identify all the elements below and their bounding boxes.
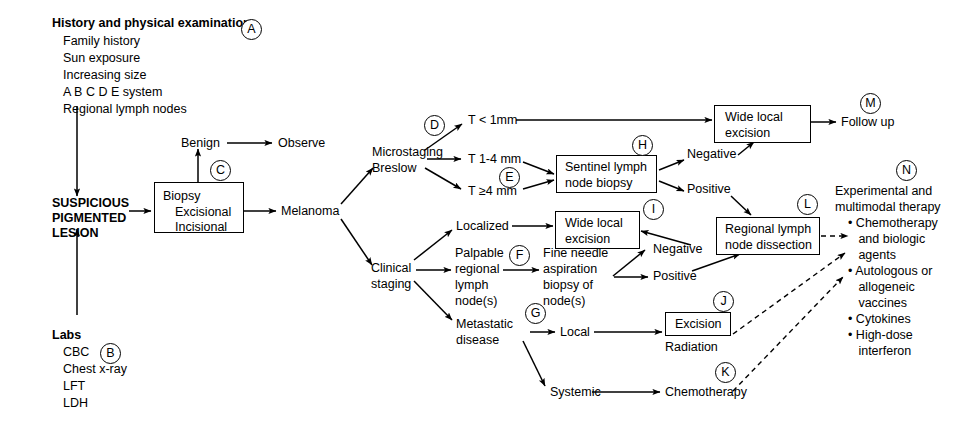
therapy-bullet-vaccines: • Autologous or xyxy=(848,264,932,278)
wide-local-excision-top-box: Wide local excision xyxy=(714,105,811,143)
microstaging-label: Microstaging xyxy=(372,145,443,161)
palpable-line4: node(s) xyxy=(455,294,497,310)
therapy-bullet-chemotherapy: • Chemotherapy xyxy=(848,216,938,230)
clinical-staging-line1: Clinical xyxy=(371,261,411,277)
key-circle-d: D xyxy=(424,115,445,136)
therapy-heading-line1: Experimental and xyxy=(835,184,932,200)
follow-up-label: Follow up xyxy=(841,115,895,131)
therapy-bullet-interferon: • High-dose xyxy=(848,328,913,342)
therapy-heading-line2: multimodal therapy xyxy=(835,200,941,216)
radiation-label: Radiation xyxy=(665,340,718,356)
connector-layer xyxy=(0,0,974,421)
excision-label: Excision xyxy=(675,316,722,332)
local-label: Local xyxy=(560,325,590,341)
wide-local-top-line1: Wide local xyxy=(725,109,783,125)
flowchart-canvas: History and physical examination A Famil… xyxy=(0,0,974,421)
t-stage-lt-1mm: T < 1mm xyxy=(468,113,517,129)
therapy-bullet-vaccines-cont1: allogeneic xyxy=(848,280,915,294)
rlnd-line1: Regional lymph xyxy=(725,221,811,237)
key-circle-e: E xyxy=(499,167,520,188)
key-circle-a: A xyxy=(241,19,262,40)
history-item-regional-lymph-nodes: Regional lymph nodes xyxy=(63,102,187,118)
history-item-increasing-size: Increasing size xyxy=(63,68,146,84)
history-heading: History and physical examination xyxy=(52,16,251,32)
history-item-abcde-system: A B C D E system xyxy=(63,85,162,101)
sentinel-label-line1: Sentinel lymph xyxy=(565,159,647,175)
suspicious-lesion-line2: PIGMENTED xyxy=(52,211,126,227)
labs-item-cbc: CBC xyxy=(63,345,89,361)
fna-line3: biopsy of xyxy=(543,278,593,294)
benign-label: Benign xyxy=(181,136,220,152)
biopsy-label-line1: Biopsy xyxy=(163,188,201,204)
key-circle-b: B xyxy=(100,343,121,364)
labs-heading: Labs xyxy=(52,328,81,344)
history-item-sun-exposure: Sun exposure xyxy=(63,51,140,67)
key-circle-n: N xyxy=(896,160,917,181)
suspicious-lesion-line1: SUSPICIOUS xyxy=(52,196,129,212)
palpable-line3: lymph xyxy=(455,278,488,294)
key-circle-i: I xyxy=(643,199,664,220)
fna-negative-label: Negative xyxy=(653,242,702,258)
key-circle-h: H xyxy=(632,135,653,156)
sentinel-positive-label: Positive xyxy=(687,182,731,198)
localized-label: Localized xyxy=(456,219,509,235)
wide-local-top-line2: excision xyxy=(725,125,770,141)
key-circle-l: L xyxy=(797,194,818,215)
sentinel-lymph-node-biopsy-box: Sentinel lymph node biopsy xyxy=(556,155,657,193)
wide-local-mid-line1: Wide local xyxy=(565,215,623,231)
labs-item-ldh: LDH xyxy=(63,396,88,412)
fna-line4: node(s) xyxy=(543,294,585,310)
melanoma-label: Melanoma xyxy=(281,204,339,220)
therapy-bullet-vaccines-cont2: vaccines xyxy=(848,296,907,310)
therapy-bullet-interferon-cont1: interferon xyxy=(848,344,911,358)
therapy-bullet-cytokines: • Cytokines xyxy=(848,312,911,326)
t-stage-1-4mm: T 1-4 mm xyxy=(468,152,521,168)
sentinel-negative-label: Negative xyxy=(687,147,736,163)
fna-positive-label: Positive xyxy=(653,269,697,285)
wide-local-mid-line2: excision xyxy=(565,231,610,247)
rlnd-line2: node dissection xyxy=(725,237,812,253)
labs-item-chest-xray: Chest x-ray xyxy=(63,362,127,378)
systemic-label: Systemic xyxy=(550,385,601,401)
observe-label: Observe xyxy=(278,136,325,152)
chemotherapy-label: Chemotherapy xyxy=(665,385,747,401)
regional-lymph-node-dissection-box: Regional lymph node dissection xyxy=(716,217,820,255)
biopsy-label-line2: Excisional xyxy=(175,204,231,220)
therapy-bullet-chemotherapy-cont1: and biologic xyxy=(848,232,925,246)
metastatic-line1: Metastatic xyxy=(456,317,513,333)
biopsy-box: Biopsy Excisional Incisional xyxy=(154,182,244,233)
palpable-line2: regional xyxy=(455,262,499,278)
key-circle-f: F xyxy=(509,245,530,266)
palpable-line1: Palpable xyxy=(455,246,504,262)
wide-local-excision-mid-box: Wide local excision xyxy=(555,211,640,249)
fna-line2: aspiration xyxy=(543,262,597,278)
sentinel-label-line2: node biopsy xyxy=(565,175,632,191)
excision-box: Excision xyxy=(665,312,731,336)
key-circle-c: C xyxy=(210,160,231,181)
key-circle-k: K xyxy=(715,362,736,383)
metastatic-line2: disease xyxy=(456,333,499,349)
key-circle-m: M xyxy=(860,93,881,114)
history-item-family-history: Family history xyxy=(63,34,140,50)
breslow-label: Breslow xyxy=(372,161,416,177)
labs-item-lft: LFT xyxy=(63,379,85,395)
key-circle-j: J xyxy=(713,291,734,312)
therapy-bullet-chemotherapy-cont2: agents xyxy=(848,248,896,262)
suspicious-lesion-line3: LESION xyxy=(52,226,99,242)
key-circle-g: G xyxy=(525,303,546,324)
clinical-staging-line2: staging xyxy=(371,277,411,293)
fna-line1: Fine needle xyxy=(543,246,608,262)
biopsy-label-line3: Incisional xyxy=(175,219,227,235)
